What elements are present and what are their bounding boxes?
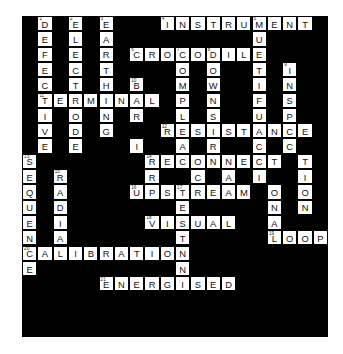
crossword-cell[interactable]: N xyxy=(175,261,190,276)
crossword-cell[interactable]: I xyxy=(144,246,159,261)
crossword-cell[interactable]: I xyxy=(68,246,83,261)
crossword-cell[interactable]: W xyxy=(206,77,221,92)
crossword-cell[interactable]: L xyxy=(144,93,159,108)
crossword-cell[interactable]: N xyxy=(175,16,190,31)
crossword-cell[interactable]: R xyxy=(99,246,114,261)
crossword-cell[interactable]: I xyxy=(252,169,267,184)
crossword-cell[interactable]: E xyxy=(206,276,221,291)
crossword-cell[interactable]: A xyxy=(206,215,221,230)
crossword-cell[interactable]: A xyxy=(221,169,236,184)
crossword-cell[interactable]: S xyxy=(282,93,297,108)
crossword-cell[interactable]: S xyxy=(190,276,205,291)
crossword-cell[interactable]: T xyxy=(236,123,251,138)
crossword-cell[interactable]: N xyxy=(282,16,297,31)
crossword-cell[interactable]: T xyxy=(175,230,190,245)
crossword-cell[interactable]: T xyxy=(68,77,83,92)
crossword-cell[interactable]: E xyxy=(22,215,37,230)
crossword-cell[interactable]: A xyxy=(129,93,144,108)
crossword-cell[interactable]: M xyxy=(83,93,98,108)
crossword-cell[interactable]: E xyxy=(206,184,221,199)
crossword-cell[interactable]: T xyxy=(206,16,221,31)
crossword-cell[interactable]: A xyxy=(252,123,267,138)
crossword-cell[interactable]: F xyxy=(252,93,267,108)
crossword-cell[interactable]: N xyxy=(206,93,221,108)
crossword-cell[interactable]: 21E xyxy=(99,276,114,291)
crossword-cell[interactable]: I xyxy=(99,93,114,108)
crossword-cell[interactable]: A xyxy=(175,138,190,153)
crossword-cell[interactable]: N xyxy=(267,200,282,215)
crossword-cell[interactable]: P xyxy=(175,93,190,108)
crossword-cell[interactable]: E xyxy=(37,138,52,153)
crossword-cell[interactable]: L xyxy=(53,246,68,261)
crossword-cell[interactable]: P xyxy=(313,230,328,245)
crossword-cell[interactable]: 19L xyxy=(267,230,282,245)
crossword-cell[interactable]: S xyxy=(160,184,175,199)
crossword-cell[interactable]: E xyxy=(236,154,251,169)
crossword-cell[interactable]: D xyxy=(53,200,68,215)
crossword-cell[interactable]: O xyxy=(297,184,312,199)
crossword-cell[interactable]: A xyxy=(114,246,129,261)
crossword-cell[interactable]: U xyxy=(252,31,267,46)
crossword-cell[interactable]: L xyxy=(221,215,236,230)
crossword-cell[interactable]: 4I xyxy=(160,16,175,31)
crossword-cell[interactable]: 14R xyxy=(144,154,159,169)
crossword-cell[interactable]: E xyxy=(175,123,190,138)
crossword-cell[interactable]: A xyxy=(221,184,236,199)
crossword-cell[interactable]: L xyxy=(236,47,251,62)
crossword-cell[interactable]: U xyxy=(22,200,37,215)
crossword-cell[interactable]: I xyxy=(37,108,52,123)
crossword-cell[interactable]: C xyxy=(175,154,190,169)
crossword-cell[interactable]: 9I xyxy=(282,62,297,77)
crossword-cell[interactable]: N xyxy=(282,77,297,92)
crossword-cell[interactable]: G xyxy=(160,276,175,291)
crossword-cell[interactable]: O xyxy=(297,230,312,245)
crossword-cell[interactable]: E xyxy=(68,138,83,153)
crossword-cell[interactable]: I xyxy=(175,276,190,291)
crossword-cell[interactable]: E xyxy=(267,16,282,31)
crossword-cell[interactable]: Q xyxy=(22,184,37,199)
crossword-cell[interactable]: I xyxy=(206,123,221,138)
crossword-cell[interactable]: O xyxy=(190,47,205,62)
crossword-cell[interactable]: V xyxy=(37,123,52,138)
crossword-cell[interactable]: T xyxy=(297,154,312,169)
crossword-cell[interactable]: L xyxy=(68,31,83,46)
crossword-cell[interactable]: I xyxy=(252,77,267,92)
crossword-grid[interactable]: 1D2E3E4INSTRU5MENTELAUFER6CRO7CO8DILEECT… xyxy=(22,16,328,337)
crossword-cell[interactable]: 15R xyxy=(53,169,68,184)
crossword-cell[interactable]: E xyxy=(129,276,144,291)
crossword-cell[interactable]: O xyxy=(282,230,297,245)
crossword-cell[interactable]: T xyxy=(267,154,282,169)
crossword-cell[interactable]: B xyxy=(83,246,98,261)
crossword-cell[interactable]: C xyxy=(68,62,83,77)
crossword-cell[interactable]: N xyxy=(114,93,129,108)
crossword-cell[interactable]: D xyxy=(221,276,236,291)
crossword-cell[interactable]: R xyxy=(129,108,144,123)
crossword-cell[interactable]: N xyxy=(175,246,190,261)
crossword-cell[interactable]: O xyxy=(160,246,175,261)
crossword-cell[interactable]: E xyxy=(22,169,37,184)
crossword-cell[interactable]: U xyxy=(190,215,205,230)
crossword-cell[interactable]: N xyxy=(267,123,282,138)
crossword-cell[interactable]: I xyxy=(129,138,144,153)
crossword-cell[interactable]: M xyxy=(236,184,251,199)
crossword-cell[interactable]: 7C xyxy=(175,47,190,62)
crossword-cell[interactable]: N xyxy=(22,230,37,245)
crossword-cell[interactable]: T xyxy=(129,246,144,261)
crossword-cell[interactable]: A xyxy=(37,246,52,261)
crossword-cell[interactable]: C xyxy=(252,154,267,169)
crossword-cell[interactable]: N xyxy=(206,154,221,169)
crossword-cell[interactable]: G xyxy=(99,123,114,138)
crossword-cell[interactable]: I xyxy=(160,215,175,230)
crossword-cell[interactable]: 20C xyxy=(22,246,37,261)
crossword-cell[interactable]: E xyxy=(53,93,68,108)
crossword-cell[interactable]: C xyxy=(282,123,297,138)
crossword-cell[interactable]: 12R xyxy=(160,123,175,138)
crossword-cell[interactable]: 18V xyxy=(144,215,159,230)
crossword-cell[interactable]: O xyxy=(175,62,190,77)
crossword-cell[interactable]: I xyxy=(221,47,236,62)
crossword-cell[interactable]: U xyxy=(236,16,251,31)
crossword-cell[interactable]: R xyxy=(68,93,83,108)
crossword-cell[interactable]: S xyxy=(221,123,236,138)
crossword-cell[interactable]: N xyxy=(114,276,129,291)
crossword-cell[interactable]: A xyxy=(53,184,68,199)
